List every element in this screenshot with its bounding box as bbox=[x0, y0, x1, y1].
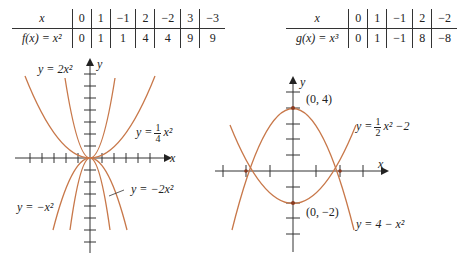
point-0-4 bbox=[291, 106, 295, 110]
label-y-2x2: y = 2x² bbox=[38, 62, 72, 76]
label-y-quarter-x2: y =14x² bbox=[136, 123, 172, 144]
label-y-half-x2-minus-2: y =12x² −2 bbox=[356, 117, 409, 138]
left-graph bbox=[15, 60, 170, 253]
point-0-neg2 bbox=[291, 201, 295, 205]
label-y-neg-2x2: y = −2x² bbox=[131, 182, 173, 196]
axis-x-label: x bbox=[378, 157, 383, 171]
axis-y-label: y bbox=[97, 57, 102, 71]
axis-y-label: y bbox=[300, 75, 305, 89]
label-point-0-neg2: (0, −2) bbox=[306, 205, 339, 220]
axis-x-label: x bbox=[170, 151, 175, 165]
label-y-4-minus-x2: y = 4 − x² bbox=[356, 217, 404, 231]
label-point-0-4: (0, 4) bbox=[306, 92, 332, 107]
intersection-left bbox=[244, 169, 248, 173]
intersection-right bbox=[338, 169, 342, 173]
label-y-neg-x2: y = −x² bbox=[17, 200, 53, 214]
